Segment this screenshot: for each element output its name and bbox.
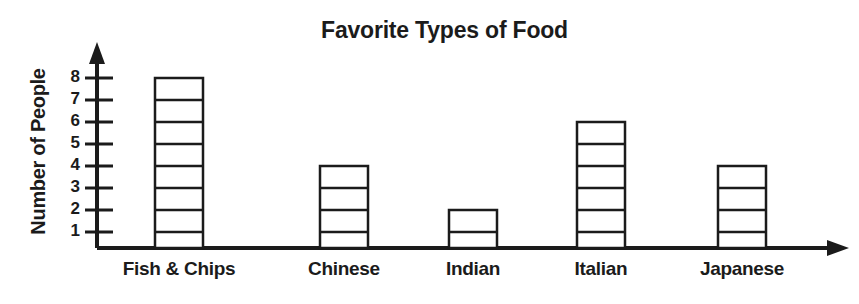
- bar-fish-and-chips: [155, 78, 203, 248]
- x-category-label-fish-and-chips: Fish & Chips: [99, 258, 259, 280]
- y-tick-label-4: 4: [58, 155, 80, 175]
- y-tick-label-1: 1: [58, 221, 80, 241]
- x-axis-arrow-icon: [827, 240, 849, 256]
- x-category-label-indian: Indian: [403, 258, 543, 280]
- y-tick-label-7: 7: [58, 89, 80, 109]
- y-tick-label-2: 2: [58, 199, 80, 219]
- x-category-label-italian: Italian: [531, 258, 671, 280]
- bar-italian: [577, 122, 625, 248]
- x-category-label-chinese: Chinese: [274, 258, 414, 280]
- y-tick-label-8: 8: [58, 67, 80, 87]
- y-tick-label-3: 3: [58, 177, 80, 197]
- x-category-label-japanese: Japanese: [672, 258, 812, 280]
- bar-indian: [449, 210, 497, 248]
- bar-chinese: [320, 166, 368, 248]
- bar-japanese: [718, 166, 766, 248]
- y-axis-arrow-icon: [89, 42, 105, 64]
- bar-chart-figure: Favorite Types of Food Number of People: [0, 0, 859, 304]
- y-tick-label-6: 6: [58, 111, 80, 131]
- y-tick-label-5: 5: [58, 133, 80, 153]
